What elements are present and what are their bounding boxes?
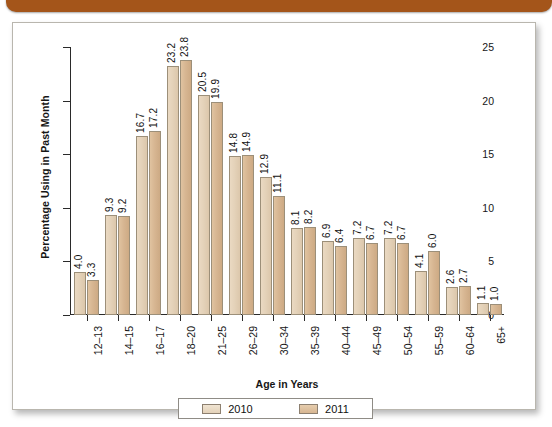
- bar-value-label: 2.7: [458, 269, 469, 284]
- bar-2010-35–39: [291, 228, 303, 315]
- bar-2011-18–20: [180, 60, 192, 315]
- x-tick-label: 60–64: [464, 326, 476, 355]
- bar-value-label: 7.2: [352, 220, 363, 235]
- bar-value-label: 14.8: [228, 133, 239, 153]
- bar-2011-30–34: [273, 196, 285, 315]
- x-tick-label: 26–29: [247, 326, 259, 355]
- bar-value-label: 8.1: [290, 211, 301, 226]
- bar-value-label: 9.3: [104, 198, 115, 213]
- x-tick-label: 65+: [495, 326, 507, 344]
- bar-2010-18–20: [167, 66, 179, 315]
- bar-2011-45–49: [366, 243, 378, 315]
- bar-value-label: 16.7: [135, 113, 146, 133]
- x-axis-title: Age in Years: [70, 378, 504, 390]
- bar-group: 2.62.7: [446, 47, 472, 315]
- bar-2011-40–44: [335, 246, 347, 315]
- bar-2011-12–13: [87, 280, 99, 315]
- x-tick-label: 55–59: [433, 326, 445, 355]
- bar-group: 20.519.9: [198, 47, 224, 315]
- bar-2011-65+: [490, 304, 502, 315]
- y-tick-mark: [63, 154, 70, 155]
- bar-value-label: 6.0: [427, 233, 438, 248]
- legend-swatch-2010: [202, 404, 221, 414]
- bar-value-label: 6.7: [365, 226, 376, 241]
- bar-group: 23.223.8: [167, 47, 193, 315]
- bar-value-label: 8.2: [303, 210, 314, 225]
- x-tick-label: 30–34: [278, 326, 290, 355]
- y-axis-title: Percentage Using in Past Month: [39, 52, 51, 302]
- bar-group: 7.26.7: [384, 47, 410, 315]
- bar-value-label: 3.3: [86, 262, 97, 277]
- y-tick-mark: [63, 47, 70, 48]
- bar-value-label: 6.7: [396, 226, 407, 241]
- bar-value-label: 17.2: [148, 107, 159, 127]
- decorative-header-bar: [6, 0, 552, 12]
- bar-2010-40–44: [322, 241, 334, 315]
- bar-value-label: 19.9: [210, 78, 221, 98]
- bar-group: 4.03.3: [74, 47, 100, 315]
- bar-group: 8.18.2: [291, 47, 317, 315]
- bar-value-label: 7.2: [383, 220, 394, 235]
- bar-2011-21–25: [211, 102, 223, 315]
- bar-2010-30–34: [260, 177, 272, 315]
- x-tick-label: 35–39: [309, 326, 321, 355]
- bar-value-label: 4.1: [414, 254, 425, 269]
- chart-legend: 2010 2011: [178, 398, 373, 419]
- figure-panel: Percentage Using in Past Month 051015202…: [12, 22, 536, 410]
- bar-2010-55–59: [415, 271, 427, 315]
- y-tick-mark: [63, 101, 70, 102]
- bar-value-label: 2.6: [445, 270, 456, 285]
- bar-chart: Percentage Using in Past Month 051015202…: [13, 23, 537, 411]
- bar-group: 6.96.4: [322, 47, 348, 315]
- x-tick-mark: [242, 315, 243, 321]
- bar-2010-26–29: [229, 156, 241, 315]
- bar-value-label: 23.8: [179, 37, 190, 57]
- bar-2011-50–54: [397, 243, 409, 315]
- bar-2010-65+: [477, 303, 489, 315]
- bar-value-label: 20.5: [197, 72, 208, 92]
- x-tick-mark: [397, 315, 398, 321]
- bar-group: 1.11.0: [477, 47, 503, 315]
- bar-group: 4.16.0: [415, 47, 441, 315]
- bar-group: 12.911.1: [260, 47, 286, 315]
- x-tick-mark: [149, 315, 150, 321]
- x-tick-mark: [428, 315, 429, 321]
- x-tick-label: 12–13: [92, 326, 104, 355]
- bar-2011-16–17: [149, 131, 161, 315]
- y-tick-mark: [63, 208, 70, 209]
- bar-2010-50–54: [384, 238, 396, 315]
- bar-2010-21–25: [198, 95, 210, 315]
- plot-area: 0510152025 4.03.39.39.216.717.223.223.82…: [70, 47, 504, 315]
- bar-2010-12–13: [74, 272, 86, 315]
- bar-value-label: 6.9: [321, 224, 332, 239]
- x-tick-mark: [273, 315, 274, 321]
- x-tick-mark: [118, 315, 119, 321]
- bar-2010-16–17: [136, 136, 148, 315]
- bar-2010-14–15: [105, 215, 117, 315]
- y-tick-mark: [63, 261, 70, 262]
- bar-value-label: 1.1: [476, 286, 487, 301]
- x-tick-mark: [180, 315, 181, 321]
- x-tick-mark: [459, 315, 460, 321]
- x-tick-mark: [304, 315, 305, 321]
- bar-value-label: 6.4: [334, 229, 345, 244]
- bar-group: 16.717.2: [136, 47, 162, 315]
- legend-swatch-2011: [299, 404, 318, 414]
- x-tick-mark: [87, 315, 88, 321]
- legend-label-2010: 2010: [228, 403, 252, 415]
- bar-2010-60–64: [446, 287, 458, 315]
- x-tick-mark: [490, 315, 491, 321]
- legend-entry-2011: 2011: [299, 403, 349, 415]
- x-tick-mark: [366, 315, 367, 321]
- x-tick-label: 14–15: [123, 326, 135, 355]
- bar-group: 9.39.2: [105, 47, 131, 315]
- x-tick-label: 18–20: [185, 326, 197, 355]
- legend-entry-2010: 2010: [202, 403, 252, 415]
- bar-2011-55–59: [428, 251, 440, 315]
- x-tick-label: 16–17: [154, 326, 166, 355]
- x-tick-label: 50–54: [402, 326, 414, 355]
- bar-2011-14–15: [118, 216, 130, 315]
- bar-group: 14.814.9: [229, 47, 255, 315]
- x-tick-label: 21–25: [216, 326, 228, 355]
- bar-value-label: 14.9: [241, 132, 252, 152]
